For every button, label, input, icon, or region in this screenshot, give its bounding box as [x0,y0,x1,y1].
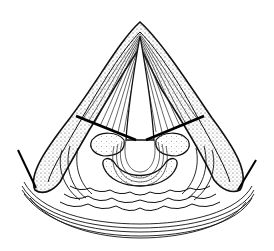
pointer-line-far-left [18,150,36,188]
outer-arcs [22,182,254,238]
left-lobe [91,133,125,156]
anatomical-illustration [0,0,274,251]
illustration-svg [0,0,274,251]
right-lobe [156,133,190,156]
